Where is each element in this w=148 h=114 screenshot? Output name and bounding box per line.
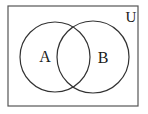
- set-b-label: B: [98, 49, 109, 66]
- venn-diagram: A B U: [0, 0, 148, 114]
- set-b-circle: [57, 21, 129, 93]
- universe-label: U: [126, 9, 137, 25]
- set-a-circle: [20, 22, 90, 92]
- universe-rectangle: [8, 6, 138, 106]
- set-a-label: A: [39, 48, 51, 65]
